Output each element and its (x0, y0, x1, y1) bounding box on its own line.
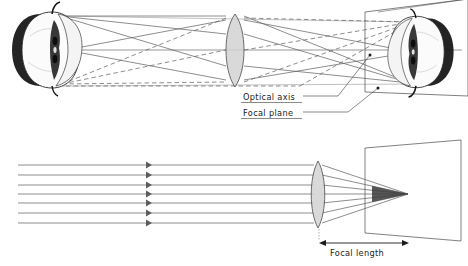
parallel-ray-group (18, 162, 314, 227)
focal-length-arrow-left (319, 240, 326, 246)
convex-lens-top (226, 14, 244, 87)
focal-plane-label: Focal plane (243, 108, 293, 118)
optical-axis-label: Optical axis (243, 92, 295, 102)
optics-figure: Optical axis Focal plane (0, 0, 468, 266)
focal-length-arrow-right (402, 240, 409, 246)
focal-point-wedge (372, 186, 408, 202)
top-diagram: Optical axis Focal plane (12, 0, 468, 119)
focal-plane-callout-dot (377, 87, 380, 90)
convex-lens-bottom (311, 161, 325, 228)
plane-top-edge-extension (378, 0, 468, 12)
bottom-diagram: Focal length (18, 140, 461, 258)
optical-axis-callout (303, 54, 372, 97)
optics-diagram-canvas: Optical axis Focal plane (0, 0, 468, 266)
focal-length-label: Focal length (330, 248, 384, 258)
optical-axis-callout-dot (369, 54, 372, 57)
focal-length-dimension (319, 240, 409, 246)
focal-plane-callout (303, 87, 380, 113)
